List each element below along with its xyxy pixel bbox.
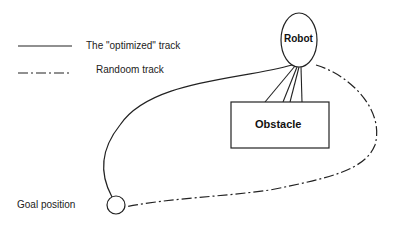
robot-obstacle-lines xyxy=(265,66,302,102)
robot-label: Robot xyxy=(284,33,313,44)
diagram-canvas xyxy=(0,0,393,228)
obstacle-label: Obstacle xyxy=(255,118,301,130)
goal-label: Goal position xyxy=(17,199,75,210)
legend-label-random: Randoom track xyxy=(96,64,164,75)
legend-label-optimized: The "optimized" track xyxy=(86,40,180,51)
goal-node xyxy=(107,196,125,214)
